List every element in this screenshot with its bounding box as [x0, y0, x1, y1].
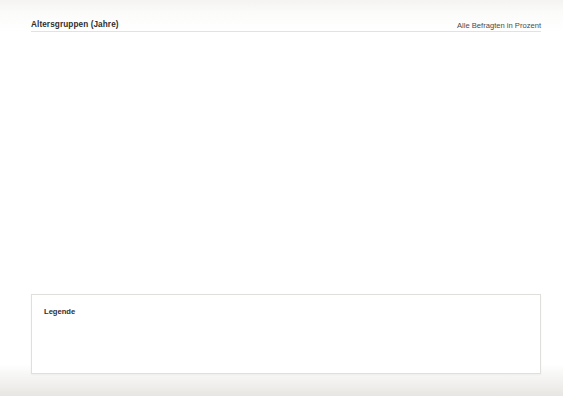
legend-title: Legende: [44, 307, 75, 316]
page-title: Altersgruppen (Jahre): [31, 20, 119, 29]
chart-page: Altersgruppen (Jahre) Alle Befragten in …: [0, 0, 563, 396]
legend-panel: Legende: [31, 294, 541, 374]
header-divider: [31, 31, 541, 32]
page-bottom-band: [0, 382, 563, 396]
chart-header: Altersgruppen (Jahre) Alle Befragten in …: [31, 20, 541, 34]
header-note: Alle Befragten in Prozent: [457, 21, 541, 30]
